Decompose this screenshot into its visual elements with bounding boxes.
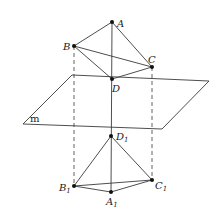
point-d [110,77,114,81]
label-c1-sub: 1 [163,185,167,193]
point-b [72,44,76,48]
plane-label: m [30,113,40,124]
label-c1: C1 [155,180,167,193]
label-d1-main: D [115,131,124,142]
lower-tetrahedron [74,136,152,192]
points [72,20,154,194]
edge-d1c1 [111,136,152,180]
label-b: B [62,41,70,52]
point-c1 [150,178,154,182]
label-a1-main: A [105,196,113,207]
edge-b1a1 [74,186,111,192]
label-b1: B1 [58,182,71,195]
point-d1 [109,134,113,138]
edge-ab [74,22,112,46]
label-d: D [111,83,120,94]
point-a1 [109,190,113,194]
point-b1 [72,184,76,188]
label-a1-sub: 1 [113,201,117,209]
axis-line-a-a1 [111,22,112,192]
edge-d1b1 [74,136,111,186]
label-a: A [116,18,124,29]
label-c: C [148,54,156,65]
label-b1-main: B [58,182,66,193]
label-a1: A1 [105,196,118,209]
geometry-diagram: m A B C D D1 B1 C1 A1 [0,0,219,215]
label-b1-sub: 1 [66,187,70,195]
label-d1-sub: 1 [124,136,128,144]
upper-tetrahedron [74,22,152,79]
point-c [150,65,154,69]
point-a [110,20,114,24]
